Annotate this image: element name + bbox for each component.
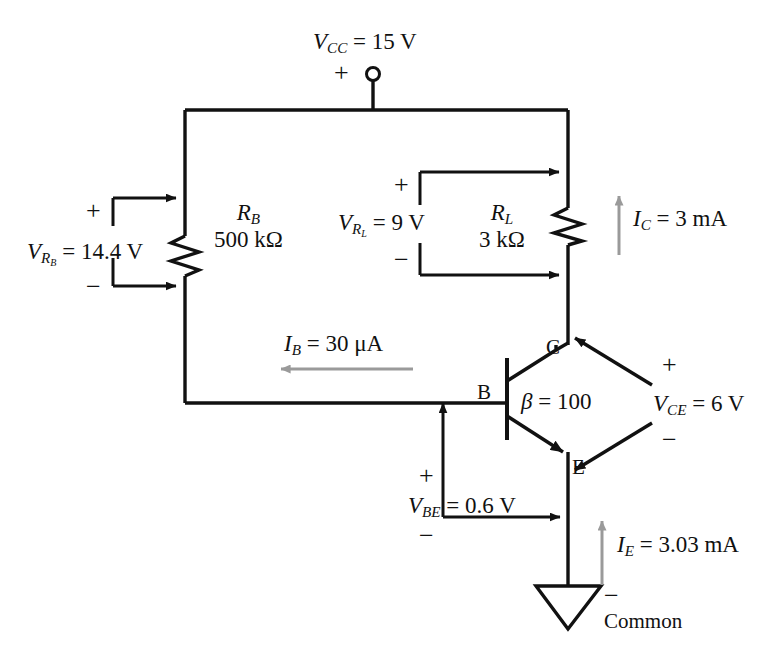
base-current-label: IB = 30 μA (284, 332, 383, 357)
vbe-plus-sign: + (419, 463, 434, 489)
emitter-current-label: IE = 3.03 mA (617, 533, 739, 558)
vce-plus-sign: + (662, 352, 677, 378)
base-terminal-label: B (477, 382, 491, 403)
base-resistor-value: 500 kΩ (214, 227, 283, 253)
ground-minus-sign: − (604, 583, 619, 609)
vrb-minus-sign: − (86, 274, 101, 300)
base-branch-wire (185, 110, 507, 403)
base-resistor-label: RB 500 kΩ (214, 200, 283, 253)
collector-current-label: IC = 3 mA (633, 207, 727, 232)
supply-terminal (367, 68, 380, 111)
circuit-diagram-canvas: VCC = 15 V + VRB = 14.4 V + − RB 500 kΩ … (0, 0, 777, 658)
emitter-terminal-label: E (572, 457, 585, 478)
vrb-label: VRB = 14.4 V (27, 240, 143, 268)
vrl-plus-sign: + (394, 172, 409, 198)
base-resistor-symbol (171, 236, 199, 276)
beta-label: β = 100 (521, 390, 591, 413)
vrl-minus-sign: − (394, 247, 409, 273)
vrl-label: VRL = 9 V (338, 211, 425, 239)
load-resistor-label: RL 3 kΩ (479, 200, 525, 253)
supply-voltage-label: VCC = 15 V (313, 30, 417, 55)
collector-terminal-label: C (546, 337, 560, 358)
vce-label: VCE = 6 V (653, 392, 744, 417)
common-ground-symbol (536, 586, 601, 629)
vrb-plus-sign: + (86, 198, 101, 224)
supply-plus-sign: + (334, 60, 349, 86)
base-resistor-name: RB (214, 200, 283, 227)
load-resistor-value: 3 kΩ (479, 227, 525, 253)
schematic-drawing (0, 0, 777, 658)
vbe-label: VBE = 0.6 V (408, 494, 516, 519)
load-resistor-symbol (554, 208, 582, 245)
vbe-minus-sign: − (419, 523, 434, 549)
vce-minus-sign: − (662, 427, 677, 453)
ground-label: Common (604, 611, 682, 632)
load-resistor-name: RL (479, 200, 525, 227)
